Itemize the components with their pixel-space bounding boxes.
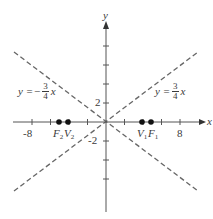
- x-axis-label: x: [207, 116, 212, 127]
- eq-lhs: y =: [155, 86, 170, 97]
- eq-var: x: [51, 86, 56, 97]
- x-tick-label-8: 8: [177, 128, 183, 139]
- point-V2: [65, 119, 71, 125]
- x-tick-label-neg8: -8: [23, 128, 32, 139]
- label-F2: F2: [53, 128, 63, 141]
- y-axis-arrow-icon: [103, 21, 109, 29]
- eq-fraction: 3 4: [42, 82, 49, 101]
- x-axis-arrow-icon: [199, 119, 206, 125]
- y-tick-label-neg2: -2: [88, 135, 97, 146]
- coordinate-diagram: [0, 0, 213, 219]
- eq-fraction: 3 4: [172, 82, 179, 101]
- equation-positive-asymptote: y = 3 4 x: [155, 82, 185, 101]
- point-V1: [139, 119, 145, 125]
- label-V1: V1: [137, 128, 147, 141]
- equation-negative-asymptote: y = − 3 4 x: [18, 82, 56, 101]
- label-V2: V2: [64, 128, 74, 141]
- point-F2: [56, 119, 62, 125]
- label-F1: F1: [148, 128, 158, 141]
- point-F1: [148, 119, 154, 125]
- eq-var: x: [181, 86, 186, 97]
- eq-sign: −: [34, 86, 40, 97]
- eq-lhs: y =: [18, 86, 33, 97]
- y-tick-label-2: 2: [95, 97, 101, 108]
- y-axis-label: y: [103, 10, 108, 21]
